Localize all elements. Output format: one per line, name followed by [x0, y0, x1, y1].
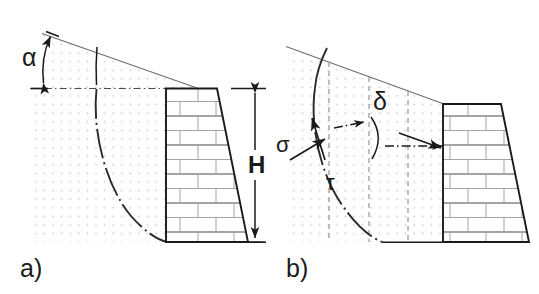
- sigma-label: σ: [276, 132, 290, 157]
- panel-a-label: a): [20, 254, 42, 282]
- masonry-wall-a: [160, 86, 256, 246]
- failure-surface-upper-a: [96, 47, 97, 85]
- tau-label: τ: [326, 170, 335, 195]
- figure-container: α H a): [0, 0, 539, 294]
- delta-label: δ: [373, 87, 387, 115]
- panel-a: α H a): [20, 20, 268, 282]
- panel-b-label: b): [286, 254, 308, 282]
- height-label: H: [248, 151, 265, 178]
- masonry-wall-b: [438, 100, 538, 246]
- panel-b: σ τ δ b): [276, 40, 538, 282]
- diagram-svg: α H a): [0, 0, 539, 294]
- alpha-label: α: [22, 43, 36, 71]
- soil-fill-b: [282, 40, 447, 248]
